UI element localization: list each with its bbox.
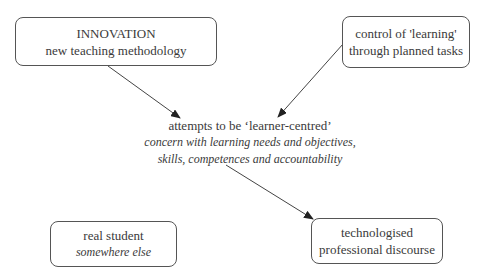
discourse-line2: professional discourse: [319, 241, 435, 258]
innovation-subtitle: new teaching methodology: [46, 42, 187, 59]
arrow-control-to-center: [278, 44, 343, 117]
center-title: attempts to be ‘learner-centred’: [125, 117, 375, 134]
control-line2: through planned tasks: [349, 42, 463, 59]
control-line1: control of 'learning': [355, 25, 456, 42]
student-subtitle: somewhere else: [76, 244, 151, 261]
discourse-box: technologised professional discourse: [311, 218, 443, 264]
learner-centred-node: attempts to be ‘learner-centred’ concern…: [125, 117, 375, 168]
center-line3: skills, competences and accountability: [125, 151, 375, 168]
arrow-innovation-to-center: [108, 66, 180, 118]
discourse-line1: technologised: [341, 224, 413, 241]
student-title: real student: [83, 227, 143, 244]
innovation-box: INNOVATION new teaching methodology: [15, 17, 217, 66]
center-line2: concern with learning needs and objectiv…: [125, 134, 375, 151]
innovation-title: INNOVATION: [76, 25, 155, 42]
arrow-center-to-discourse: [226, 165, 313, 219]
real-student-box: real student somewhere else: [50, 221, 177, 267]
control-box: control of 'learning' through planned ta…: [342, 16, 470, 68]
